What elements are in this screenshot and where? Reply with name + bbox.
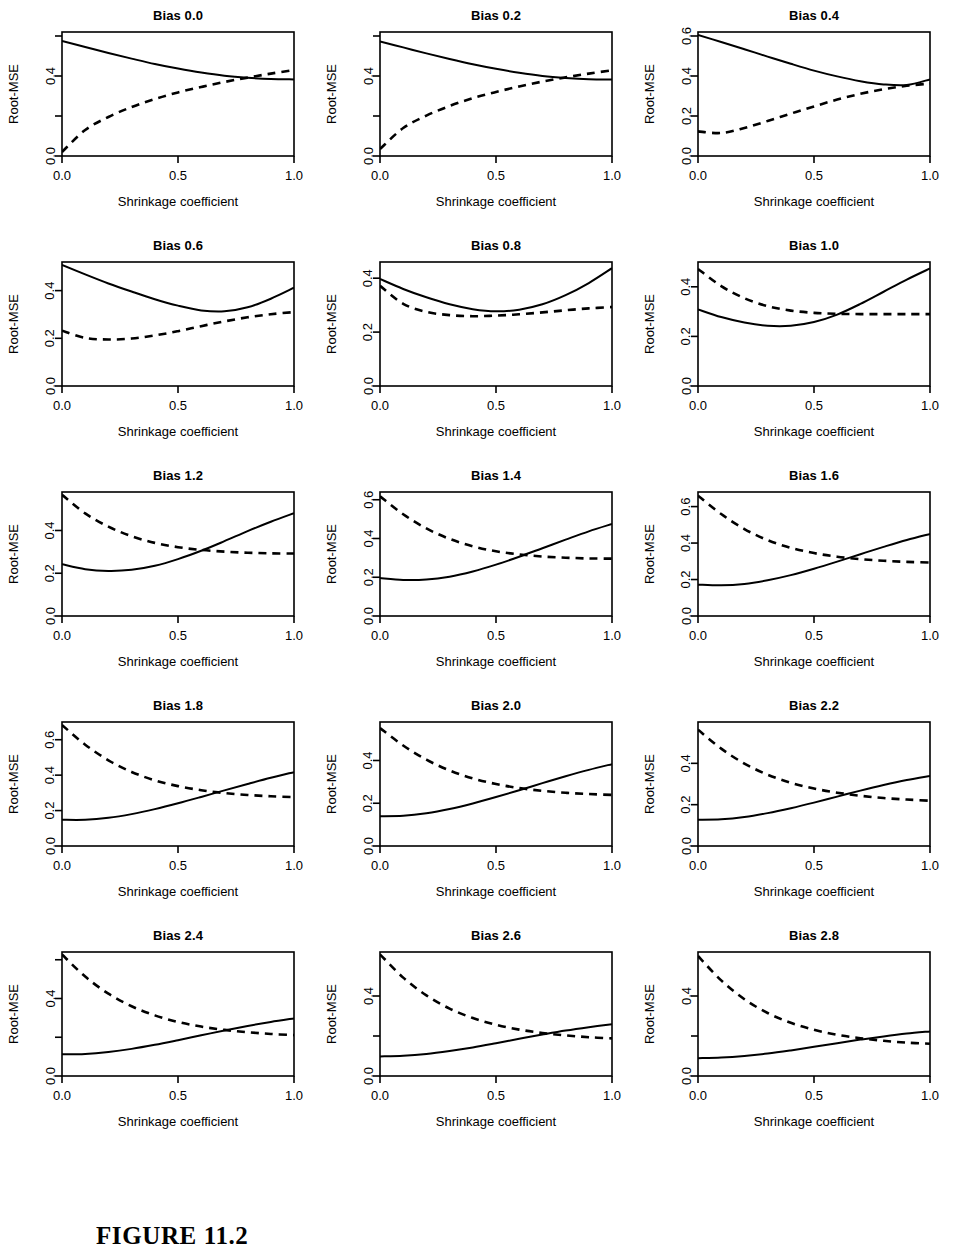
figure-caption: FIGURE 11.2 xyxy=(96,1222,248,1249)
y-tick-label: 0.4 xyxy=(679,754,694,772)
y-axis-label: Root-MSE xyxy=(324,64,339,124)
y-tick-label: 0.0 xyxy=(43,837,58,855)
curve-solid xyxy=(380,41,612,79)
x-tick-label: 0.5 xyxy=(169,1088,187,1103)
y-tick-label: 0.6 xyxy=(43,731,58,749)
y-axis: 0.00.4 xyxy=(679,987,699,1085)
curve-dashed xyxy=(62,70,294,152)
data-curves xyxy=(62,955,294,1055)
panel-title: Bias 2.4 xyxy=(153,928,204,943)
plot-panel: Bias 0.20.00.40.00.51.0Root-MSEShrinkage… xyxy=(318,0,636,230)
x-tick-label: 0.5 xyxy=(169,628,187,643)
y-axis-label: Root-MSE xyxy=(642,754,657,814)
y-tick-label: 0.2 xyxy=(679,107,694,125)
y-axis-label: Root-MSE xyxy=(642,524,657,584)
y-tick-label: 0.2 xyxy=(361,794,376,812)
data-curves xyxy=(62,495,294,571)
curve-solid xyxy=(380,764,612,816)
y-tick-label: 0.4 xyxy=(43,989,58,1007)
data-curves xyxy=(698,268,930,326)
plot-panel: Bias 2.40.00.40.00.51.0Root-MSEShrinkage… xyxy=(0,920,318,1150)
x-tick-label: 0.5 xyxy=(805,398,823,413)
y-axis: 0.00.4 xyxy=(361,36,381,165)
y-tick-label: 0.0 xyxy=(679,607,694,625)
y-axis-label: Root-MSE xyxy=(324,984,339,1044)
y-axis: 0.00.4 xyxy=(43,36,63,165)
x-tick-label: 0.5 xyxy=(169,168,187,183)
x-axis: 0.00.51.0 xyxy=(53,1076,303,1103)
x-tick-label: 1.0 xyxy=(603,1088,621,1103)
curve-solid xyxy=(698,268,930,326)
plot-box xyxy=(380,952,612,1076)
x-axis-label: Shrinkage coefficient xyxy=(118,654,239,669)
y-axis-label: Root-MSE xyxy=(6,984,21,1044)
figure-root: Bias 0.00.00.40.00.51.0Root-MSEShrinkage… xyxy=(0,0,954,1249)
panel-title: Bias 1.8 xyxy=(153,698,203,713)
x-tick-label: 1.0 xyxy=(921,628,939,643)
x-axis-label: Shrinkage coefficient xyxy=(754,424,875,439)
y-axis: 0.00.4 xyxy=(361,987,381,1085)
x-axis-label: Shrinkage coefficient xyxy=(118,884,239,899)
panel-title: Bias 1.2 xyxy=(153,468,203,483)
y-axis-label: Root-MSE xyxy=(324,524,339,584)
x-axis: 0.00.51.0 xyxy=(689,846,939,873)
y-axis-label: Root-MSE xyxy=(6,294,21,354)
y-axis: 0.00.20.4 xyxy=(679,278,699,395)
y-axis: 0.00.20.40.6 xyxy=(679,498,699,625)
y-tick-label: 0.0 xyxy=(679,1067,694,1085)
y-tick-label: 0.4 xyxy=(43,521,58,539)
y-tick-label: 0.0 xyxy=(361,607,376,625)
y-tick-label: 0.0 xyxy=(43,607,58,625)
x-tick-label: 1.0 xyxy=(285,858,303,873)
plot-panel: Bias 0.80.00.20.40.00.51.0Root-MSEShrink… xyxy=(318,230,636,460)
x-tick-label: 1.0 xyxy=(285,398,303,413)
x-axis: 0.00.51.0 xyxy=(53,846,303,873)
panel-title: Bias 0.2 xyxy=(471,8,521,23)
x-axis-label: Shrinkage coefficient xyxy=(754,884,875,899)
plot-panel: Bias 2.00.00.20.40.00.51.0Root-MSEShrink… xyxy=(318,690,636,920)
data-curves xyxy=(62,41,294,152)
y-tick-label: 0.4 xyxy=(361,269,376,287)
curve-dashed xyxy=(62,725,294,797)
y-tick-label: 0.2 xyxy=(43,564,58,582)
y-tick-label: 0.0 xyxy=(679,377,694,395)
plot-panel: Bias 1.60.00.20.40.60.00.51.0Root-MSEShr… xyxy=(636,460,954,690)
y-tick-label: 0.4 xyxy=(679,67,694,85)
data-curves xyxy=(698,35,930,133)
y-tick-label: 0.0 xyxy=(361,837,376,855)
y-tick-label: 0.0 xyxy=(361,1067,376,1085)
plot-panel: Bias 1.80.00.20.40.60.00.51.0Root-MSEShr… xyxy=(0,690,318,920)
y-tick-label: 0.2 xyxy=(361,568,376,586)
panel-title: Bias 2.2 xyxy=(789,698,839,713)
y-tick-label: 0.4 xyxy=(361,987,376,1005)
y-tick-label: 0.6 xyxy=(361,491,376,509)
y-axis-label: Root-MSE xyxy=(6,64,21,124)
x-axis-label: Shrinkage coefficient xyxy=(436,884,557,899)
plot-box xyxy=(698,722,930,846)
x-axis: 0.00.51.0 xyxy=(689,156,939,183)
panel-title: Bias 0.4 xyxy=(789,8,840,23)
plot-panel: Bias 2.60.00.40.00.51.0Root-MSEShrinkage… xyxy=(318,920,636,1150)
curve-solid xyxy=(698,1031,930,1058)
y-tick-label: 0.4 xyxy=(361,751,376,769)
panel-title: Bias 2.6 xyxy=(471,928,521,943)
data-curves xyxy=(380,954,612,1056)
panel-title: Bias 0.0 xyxy=(153,8,203,23)
plot-panel: Bias 1.20.00.20.40.00.51.0Root-MSEShrink… xyxy=(0,460,318,690)
x-tick-label: 0.5 xyxy=(487,628,505,643)
x-axis-label: Shrinkage coefficient xyxy=(436,194,557,209)
curve-solid xyxy=(62,41,294,79)
y-tick-label: 0.4 xyxy=(43,766,58,784)
plot-box xyxy=(698,32,930,156)
y-axis-label: Root-MSE xyxy=(6,754,21,814)
y-axis: 0.00.4 xyxy=(43,960,63,1085)
x-tick-label: 1.0 xyxy=(921,1088,939,1103)
x-axis-label: Shrinkage coefficient xyxy=(754,194,875,209)
y-axis: 0.00.20.40.6 xyxy=(679,27,699,165)
y-axis-label: Root-MSE xyxy=(324,754,339,814)
y-tick-label: 0.4 xyxy=(43,67,58,85)
y-tick-label: 0.6 xyxy=(679,27,694,45)
curve-dashed xyxy=(380,954,612,1038)
data-curves xyxy=(62,725,294,820)
panel-title: Bias 2.8 xyxy=(789,928,839,943)
